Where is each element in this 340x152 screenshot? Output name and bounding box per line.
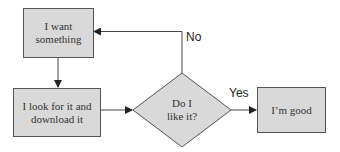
look-line2: download it [31, 113, 83, 126]
want-line1: I want [45, 20, 73, 33]
like-line2: like it? [167, 110, 197, 123]
good-text: I’m good [271, 104, 312, 117]
edge-like-want [94, 32, 182, 74]
look-line1: I look for it and [22, 100, 91, 113]
edge-label-yes: Yes [229, 86, 249, 100]
node-look-label: I look for it and download it [13, 88, 101, 137]
node-want-label: I want something [23, 8, 94, 58]
node-good-label: I’m good [257, 87, 326, 133]
want-line2: something [36, 33, 82, 46]
edge-label-no: No [186, 30, 201, 44]
like-line1: Do I [172, 97, 192, 110]
node-like-label: Do I like it? [150, 94, 214, 126]
